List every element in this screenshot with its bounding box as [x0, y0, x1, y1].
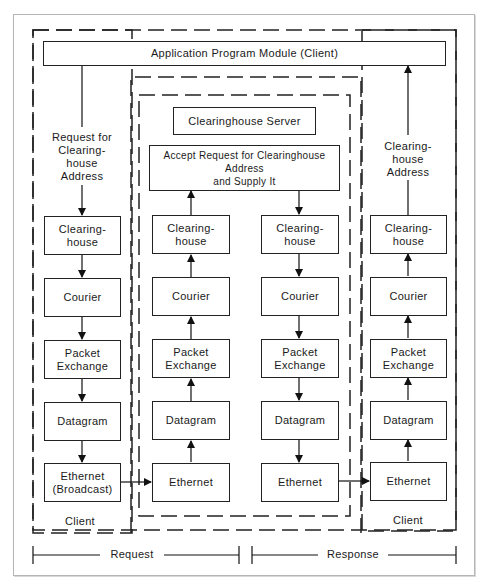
clearinghouse-server-box: Clearinghouse Server	[173, 107, 316, 135]
request-address-label: Request for Clearing- house Address	[40, 131, 124, 183]
server-out-datagram-box: Datagram	[261, 401, 339, 440]
server-out-packet-exchange-box: Packet Exchange	[261, 339, 339, 378]
right-ethernet-box: Ethernet	[370, 462, 447, 501]
server-in-clearinghouse-box: Clearing- house	[152, 215, 230, 254]
server-in-packet-exchange-box: Packet Exchange	[152, 339, 230, 378]
left-courier-box: Courier	[44, 278, 121, 317]
right-client-label: Client	[378, 514, 438, 527]
response-address-label: Clearing- house Address	[372, 140, 444, 179]
left-datagram-box: Datagram	[44, 402, 121, 441]
application-program-module: Application Program Module (Client)	[43, 41, 446, 66]
server-in-ethernet-box: Ethernet	[152, 463, 230, 502]
right-clearinghouse-box: Clearing- house	[370, 215, 447, 254]
accept-request-box: Accept Request for Clearinghouse Address…	[149, 145, 340, 191]
left-clearinghouse-box: Clearing- house	[44, 216, 121, 255]
right-datagram-box: Datagram	[370, 401, 447, 440]
right-courier-box: Courier	[370, 277, 447, 316]
server-in-datagram-box: Datagram	[152, 401, 230, 440]
left-packet-exchange-box: Packet Exchange	[44, 340, 121, 379]
left-client-label: Client	[50, 515, 110, 528]
left-ethernet-broadcast-box: Ethernet (Broadcast)	[44, 463, 121, 502]
server-in-courier-box: Courier	[152, 277, 230, 316]
server-out-courier-box: Courier	[261, 277, 339, 316]
right-packet-exchange-box: Packet Exchange	[370, 339, 447, 378]
app-module-label: Application Program Module (Client)	[151, 47, 338, 60]
server-out-ethernet-box: Ethernet	[261, 463, 339, 502]
response-timeline-label: Response	[318, 548, 388, 561]
server-out-clearinghouse-box: Clearing- house	[261, 215, 339, 254]
request-timeline-label: Request	[100, 548, 164, 561]
